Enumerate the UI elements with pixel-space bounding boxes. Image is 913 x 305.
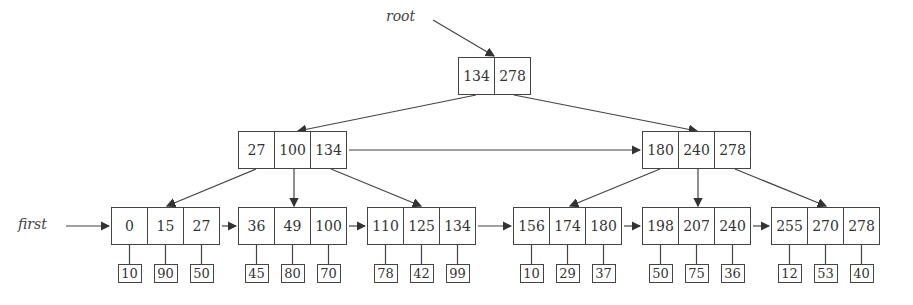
- record-pointer: 75: [685, 264, 709, 283]
- record-pointer: 37: [592, 264, 616, 283]
- internal-key: 27: [238, 131, 275, 169]
- leaf-key: 49: [274, 207, 311, 245]
- tree-edges: [0, 0, 913, 305]
- record-pointer: 12: [778, 264, 802, 283]
- leaf-key: 240: [714, 207, 751, 245]
- record-pointer: 50: [190, 264, 214, 283]
- record-pointer: 36: [721, 264, 745, 283]
- root-key: 278: [494, 57, 531, 95]
- record-pointer: 10: [520, 264, 544, 283]
- leaf-key: 278: [843, 207, 880, 245]
- record-pointer: 70: [317, 264, 341, 283]
- record-pointer: 53: [814, 264, 838, 283]
- leaf-key: 110: [367, 207, 404, 245]
- record-pointer: 45: [245, 264, 269, 283]
- internal-key: 240: [678, 131, 715, 169]
- leaf-key: 174: [549, 207, 586, 245]
- root-key: 134: [458, 57, 495, 95]
- record-pointer: 50: [649, 264, 673, 283]
- record-pointer: 90: [154, 264, 178, 283]
- leaf-key: 255: [771, 207, 808, 245]
- leaf-key: 180: [585, 207, 622, 245]
- record-pointer: 40: [850, 264, 874, 283]
- internal-key: 100: [274, 131, 311, 169]
- record-pointer: 78: [374, 264, 398, 283]
- first-label: first: [18, 216, 47, 232]
- leaf-key: 198: [642, 207, 679, 245]
- leaf-key: 207: [678, 207, 715, 245]
- leaf-key: 134: [439, 207, 476, 245]
- record-pointer: 29: [556, 264, 580, 283]
- record-pointer: 99: [446, 264, 470, 283]
- leaf-key: 100: [310, 207, 347, 245]
- record-pointer: 10: [118, 264, 142, 283]
- leaf-key: 0: [111, 207, 148, 245]
- internal-key: 180: [642, 131, 679, 169]
- leaf-key: 125: [403, 207, 440, 245]
- leaf-key: 270: [807, 207, 844, 245]
- leaf-key: 156: [513, 207, 550, 245]
- record-pointer: 80: [281, 264, 305, 283]
- record-pointer: 42: [410, 264, 434, 283]
- internal-key: 278: [714, 131, 751, 169]
- root-label: root: [386, 8, 415, 24]
- internal-key: 134: [310, 131, 347, 169]
- leaf-key: 27: [183, 207, 220, 245]
- leaf-key: 36: [238, 207, 275, 245]
- leaf-key: 15: [147, 207, 184, 245]
